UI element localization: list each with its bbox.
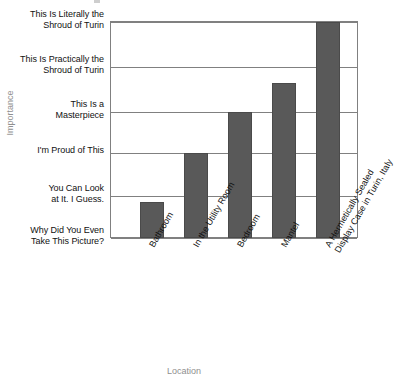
- y-axis-tick-label: I'm Proud of This: [0, 145, 104, 157]
- y-axis-tick-label: This Is aMasterpiece: [0, 99, 104, 122]
- bar: [316, 22, 340, 238]
- y-axis-tick-label-line: Shroud of Turin: [0, 65, 104, 77]
- bar: [272, 83, 296, 238]
- x-axis-tick-labels: BathroomIn the Utility RoomBedroomMantel…: [0, 238, 368, 358]
- y-axis-tick-label-line: This Is Literally the: [0, 9, 104, 21]
- bars-layer: [110, 21, 358, 238]
- y-axis-tick-label-line: You Can Look: [0, 183, 104, 195]
- y-axis-tick-label: This Is Literally theShroud of Turin: [0, 9, 104, 32]
- y-axis-tick-label-line: This Is a: [0, 99, 104, 111]
- y-axis-tick-label: This Is Practically theShroud of Turin: [0, 54, 104, 77]
- y-axis-tick-label-line: Why Did You Even: [0, 225, 104, 237]
- y-axis-tick-label-line: I'm Proud of This: [0, 145, 104, 157]
- y-axis-tick-label: You Can Lookat It. I Guess.: [0, 183, 104, 206]
- y-axis-tick-label-line: at It. I Guess.: [0, 194, 104, 206]
- y-axis-tick-label-line: Masterpiece: [0, 110, 104, 122]
- x-axis-title: Location: [0, 366, 368, 376]
- y-axis-tick-label-line: Shroud of Turin: [0, 20, 104, 32]
- y-axis-tick-label-line: This Is Practically the: [0, 54, 104, 66]
